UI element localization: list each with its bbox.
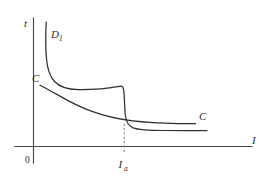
ia-tick-label-subscript: a <box>124 164 128 173</box>
curve-d1 <box>46 22 207 131</box>
curve-label-d1-subscript: 1 <box>59 34 63 43</box>
curve-label-c-left: C <box>32 72 40 84</box>
curve-c <box>40 85 196 123</box>
x-axis-label: I <box>251 134 257 146</box>
curve-label-d1: D <box>50 28 59 40</box>
curve-label-c-right: C <box>199 110 207 122</box>
figure-container: t I 0 I a D 1 C C <box>0 0 270 177</box>
ia-tick-label: I <box>118 158 124 170</box>
plot-canvas: t I 0 I a D 1 C C <box>0 0 270 177</box>
origin-label: 0 <box>25 155 30 165</box>
y-axis-label: t <box>24 17 28 29</box>
